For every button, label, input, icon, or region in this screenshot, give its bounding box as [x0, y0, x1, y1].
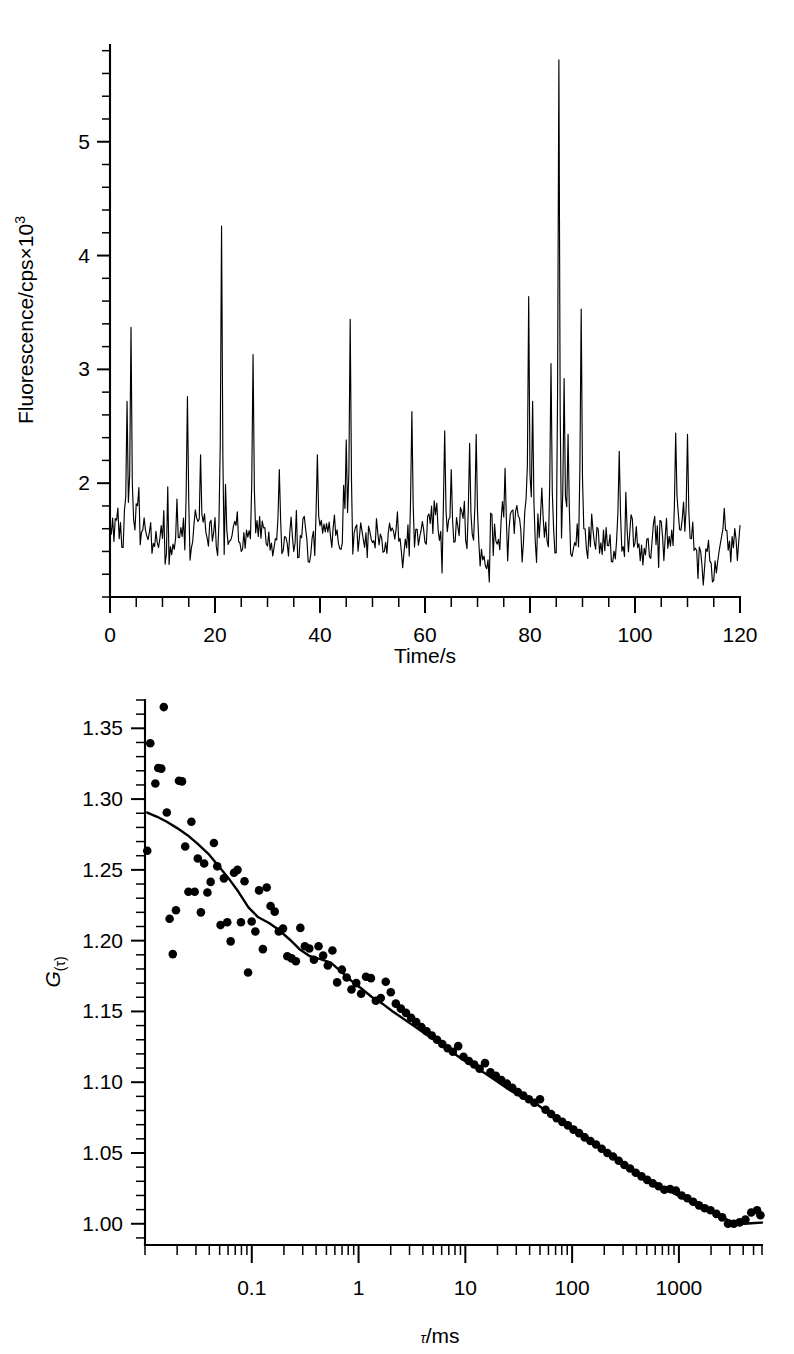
- data-point: [536, 1095, 545, 1104]
- y-axis-title: Fluorescence/cps×103: [12, 216, 37, 424]
- data-point: [357, 989, 366, 998]
- data-point: [342, 973, 351, 982]
- y-tick-label: 1.35: [82, 716, 123, 739]
- y-tick-label: 3: [78, 357, 90, 380]
- data-point: [352, 979, 361, 988]
- data-point: [206, 878, 215, 887]
- data-point: [210, 839, 219, 848]
- data-point: [454, 1042, 463, 1051]
- data-point: [338, 965, 347, 974]
- x-tick-label: 60: [413, 623, 436, 646]
- data-point: [203, 888, 212, 897]
- data-point: [181, 842, 190, 851]
- x-tick-label: 100: [555, 1276, 590, 1299]
- y-tick-label: 5: [78, 130, 90, 153]
- data-point: [220, 874, 229, 883]
- data-point: [756, 1211, 765, 1220]
- x-axis-ticks: [110, 597, 740, 613]
- figure-container: 2345 020406080100120 Time/s Fluorescence…: [0, 0, 794, 1354]
- x-axis-tick-labels: 020406080100120: [104, 623, 757, 646]
- y-tick-label: 1.05: [82, 1141, 123, 1164]
- x-tick-label: 20: [203, 623, 226, 646]
- data-point: [386, 988, 395, 997]
- x-tick-label: 100: [617, 623, 652, 646]
- data-point: [328, 946, 337, 955]
- x-tick-label: 40: [308, 623, 331, 646]
- data-point: [296, 924, 305, 933]
- x-tick-label: 1000: [656, 1276, 703, 1299]
- data-point-group: [143, 703, 765, 1228]
- data-point: [197, 908, 206, 917]
- data-point: [255, 886, 264, 895]
- top-axes: 2345 020406080100120: [78, 45, 757, 646]
- data-point: [151, 779, 160, 788]
- y-axis-ticks: [131, 700, 145, 1238]
- data-point: [481, 1059, 490, 1068]
- fit-curve: [147, 813, 762, 1224]
- data-point: [187, 817, 196, 826]
- data-point: [305, 944, 314, 953]
- data-point: [270, 907, 279, 916]
- y-tick-label: 1.25: [82, 858, 123, 881]
- data-point: [168, 950, 177, 959]
- data-point: [741, 1215, 750, 1224]
- data-point: [376, 994, 385, 1003]
- data-point: [247, 917, 256, 926]
- x-axis-title: Time/s: [394, 644, 456, 667]
- data-point: [163, 808, 172, 817]
- data-point: [172, 906, 181, 915]
- x-tick-label: 120: [722, 623, 757, 646]
- data-point: [251, 927, 260, 936]
- data-point: [718, 1213, 727, 1222]
- y-tick-label: 1.15: [82, 999, 123, 1022]
- bottom-axes: 1.001.051.101.151.201.251.301.35 0.11101…: [82, 700, 762, 1299]
- data-point: [333, 978, 342, 987]
- data-point: [314, 942, 323, 951]
- x-tick-label: 0: [104, 623, 116, 646]
- x-tick-label: 1: [353, 1276, 365, 1299]
- data-point: [323, 961, 332, 970]
- y-tick-label: 1.00: [82, 1212, 123, 1235]
- fluorescence-timetrace-panel: 2345 020406080100120 Time/s Fluorescence…: [0, 0, 794, 678]
- y-tick-label: 1.20: [82, 929, 123, 952]
- y-tick-label: 4: [78, 244, 90, 267]
- data-point: [319, 951, 328, 960]
- data-point: [240, 877, 249, 886]
- data-point: [259, 945, 268, 954]
- data-point: [237, 918, 246, 927]
- data-point: [310, 955, 319, 964]
- x-tick-label: 10: [454, 1276, 477, 1299]
- data-point: [244, 968, 253, 977]
- data-point: [146, 739, 155, 748]
- data-point: [178, 777, 187, 786]
- data-point: [226, 937, 235, 946]
- data-point: [223, 918, 232, 927]
- y-axis-tick-labels: 2345: [78, 130, 90, 494]
- data-point: [160, 703, 169, 712]
- data-point: [213, 862, 222, 871]
- autocorrelation-svg: 1.001.051.101.151.201.251.301.35 0.11101…: [0, 672, 794, 1354]
- data-point: [292, 957, 301, 966]
- y-axis-ticks: [97, 51, 110, 597]
- data-point: [279, 924, 288, 933]
- data-point: [262, 883, 271, 892]
- data-point: [381, 977, 390, 986]
- y-axis-title: G(τ): [41, 956, 68, 987]
- x-axis-title: τ/ms: [420, 1324, 459, 1347]
- data-point: [143, 846, 152, 855]
- data-point: [165, 914, 174, 923]
- x-tick-label: 80: [518, 623, 541, 646]
- data-point: [367, 974, 376, 983]
- data-point: [233, 866, 242, 875]
- x-axis-tick-labels: 0.11101001000: [237, 1276, 702, 1299]
- autocorrelation-panel: 1.001.051.101.151.201.251.301.35 0.11101…: [0, 672, 794, 1354]
- y-axis-tick-labels: 1.001.051.101.151.201.251.301.35: [82, 716, 123, 1234]
- x-axis-ticks: [145, 1245, 762, 1263]
- y-tick-label: 1.30: [82, 787, 123, 810]
- fluorescence-timetrace-svg: 2345 020406080100120 Time/s Fluorescence…: [0, 0, 794, 678]
- data-point: [190, 888, 199, 897]
- fluorescence-trace-line: [110, 60, 740, 585]
- y-tick-label: 2: [78, 471, 90, 494]
- data-point: [200, 859, 209, 868]
- y-tick-label: 1.10: [82, 1070, 123, 1093]
